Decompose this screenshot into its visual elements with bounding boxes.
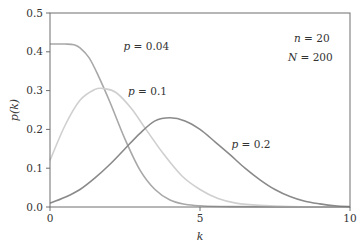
series-line-2 <box>50 118 350 207</box>
annotation-n: n = 20 <box>294 32 330 44</box>
x-axis: 0510 <box>47 207 357 224</box>
x-tick-label: 10 <box>343 212 356 224</box>
series-label-0: p = 0.04 <box>124 40 170 52</box>
annotation-N: N = 200 <box>287 51 333 63</box>
y-tick-label: 0.5 <box>26 7 43 19</box>
series-line-1 <box>50 88 350 207</box>
y-axis: 0.00.10.20.30.40.5 <box>26 7 50 213</box>
x-tick-label: 5 <box>197 212 204 224</box>
x-tick-label: 0 <box>47 212 54 224</box>
y-axis-title: p(k) <box>8 99 21 121</box>
x-axis-title: k <box>197 230 204 243</box>
binomial-distribution-chart: 0.00.10.20.30.40.5 0510 k p(k) p = 0.04p… <box>0 0 364 249</box>
series-line-0 <box>50 44 350 207</box>
y-tick-label: 0.0 <box>26 201 43 213</box>
parameter-annotation: n = 20 N = 200 <box>287 32 333 63</box>
series-label-2: p = 0.2 <box>232 138 271 150</box>
series-label-1: p = 0.1 <box>128 85 167 97</box>
series-labels: p = 0.04p = 0.1p = 0.2 <box>124 40 271 150</box>
y-tick-label: 0.2 <box>26 123 43 135</box>
curves-group <box>50 44 350 207</box>
y-tick-label: 0.3 <box>26 84 43 96</box>
y-tick-label: 0.1 <box>26 162 43 174</box>
y-tick-label: 0.4 <box>26 45 43 57</box>
